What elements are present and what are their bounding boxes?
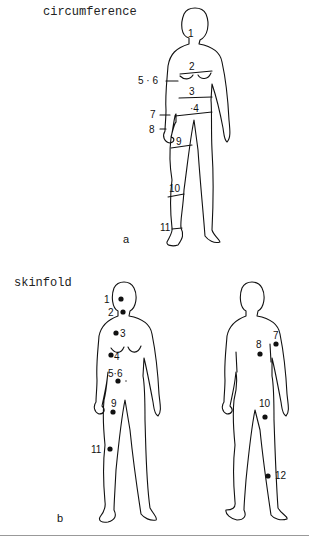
- circumference-figure: [160, 8, 230, 246]
- circ-label-8: 8: [149, 125, 155, 135]
- circ-label-2: 2: [189, 62, 195, 72]
- skinfold-label-9: 9: [111, 399, 117, 409]
- panel-b-letter: b: [57, 512, 63, 524]
- skinfold-label-8: 8: [256, 340, 262, 350]
- skinfold-label-4: 4: [114, 352, 120, 362]
- skinfold-label-12: 12: [275, 471, 286, 481]
- skinfold-front-figure: [94, 282, 160, 522]
- skinfold-title: skinfold: [14, 276, 72, 290]
- skinfold-label-2: 2: [108, 308, 114, 318]
- circ-label-5-6: 5 · 6: [138, 76, 158, 86]
- circ-label-3: 3: [189, 87, 195, 97]
- circ-label-4: ·4: [190, 104, 199, 114]
- circ-label-10: 10: [169, 184, 180, 194]
- circ-label-11: 11: [160, 223, 170, 233]
- circ-label-7: 7: [150, 110, 156, 120]
- panel-a-letter: a: [123, 233, 129, 245]
- skinfold-label-5-6: 5·6: [108, 369, 122, 379]
- skinfold-label-10: 10: [259, 399, 270, 409]
- bottom-divider: [0, 535, 309, 536]
- anthropometry-figure: circumference a 1 2 3 ·4 5 · 6 7 8 9 10 …: [0, 0, 309, 541]
- skinfold-label-3: 3: [120, 329, 126, 339]
- circumference-title: circumference: [43, 5, 137, 19]
- skinfold-label-11: 11: [91, 445, 101, 455]
- circ-label-9: 9: [176, 137, 182, 147]
- circ-label-1: 1: [188, 29, 194, 39]
- skinfold-label-7: 7: [273, 331, 279, 341]
- skinfold-label-1: 1: [104, 295, 110, 305]
- skinfold-back-figure: [222, 282, 288, 520]
